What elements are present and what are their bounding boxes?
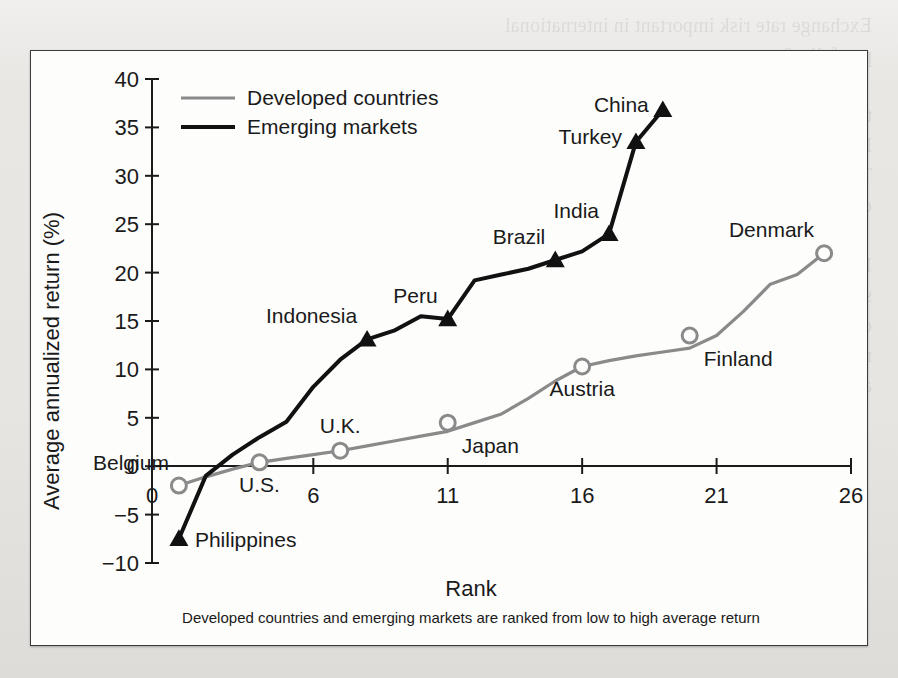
x-tick-label: 0	[146, 483, 158, 508]
data-point-marker[interactable]	[682, 328, 697, 343]
x-tick-label: 16	[570, 483, 594, 508]
point-label-uk: U.K.	[320, 414, 361, 437]
data-point-marker[interactable]	[440, 415, 455, 430]
point-label-philippines: Philippines	[195, 528, 297, 551]
point-label-finland: Finland	[704, 347, 773, 370]
y-tick-label: −5	[114, 503, 139, 528]
y-tick-label: 10	[115, 357, 139, 382]
y-tick-label: 35	[115, 115, 139, 140]
x-tick-label: 21	[704, 483, 728, 508]
y-tick-label: 40	[115, 67, 139, 92]
data-point-marker[interactable]	[169, 529, 188, 546]
y-tick-label: −10	[102, 551, 139, 576]
point-label-brazil: Brazil	[493, 225, 546, 248]
data-point-marker[interactable]	[252, 455, 267, 470]
x-axis-title: Rank	[445, 576, 497, 601]
y-tick-label: 25	[115, 212, 139, 237]
y-tick-label: 5	[127, 406, 139, 431]
point-label-japan: Japan	[462, 434, 519, 457]
legend-label-developed: Developed countries	[247, 86, 438, 109]
data-point-marker[interactable]	[575, 359, 590, 374]
data-point-marker[interactable]	[333, 443, 348, 458]
y-tick-label: 30	[115, 164, 139, 189]
y-axis-title: Average annualized return (%)	[39, 212, 64, 510]
point-label-china: China	[594, 93, 649, 116]
point-label-indonesia: Indonesia	[266, 304, 357, 327]
figure-frame: −10−50510152025303540 Average annualized…	[30, 50, 868, 646]
y-axis: −10−50510152025303540 Average annualized…	[39, 67, 159, 576]
legend-label-emerging: Emerging markets	[247, 115, 417, 138]
x-tick-label: 6	[307, 483, 319, 508]
point-label-austria: Austria	[549, 377, 615, 400]
figure-caption: Developed countries and emerging markets…	[182, 609, 760, 626]
point-label-turkey: Turkey	[559, 125, 623, 148]
x-tick-label: 26	[839, 483, 863, 508]
point-label-denmark: Denmark	[729, 218, 815, 241]
y-tick-label: 15	[115, 309, 139, 334]
point-label-peru: Peru	[393, 284, 437, 307]
chart-legend[interactable]: Developed countries Emerging markets	[181, 86, 438, 138]
point-label-belgium: Belgium	[93, 451, 169, 474]
chart-canvas: −10−50510152025303540 Average annualized…	[31, 51, 867, 645]
y-tick-label: 20	[115, 261, 139, 286]
data-point-marker[interactable]	[600, 224, 619, 241]
point-label-us: U.S.	[239, 473, 280, 496]
data-point-marker[interactable]	[653, 100, 672, 117]
point-label-india: India	[553, 199, 599, 222]
data-point-marker[interactable]	[817, 246, 832, 261]
data-point-marker[interactable]	[171, 478, 186, 493]
x-tick-label: 11	[436, 483, 459, 508]
